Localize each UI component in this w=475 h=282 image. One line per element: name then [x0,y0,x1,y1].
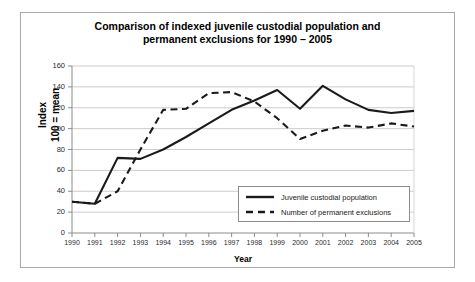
legend-swatch-dashed-icon [245,207,275,217]
y-tick-label: 0 [39,229,65,237]
x-axis-title: Year [72,254,414,264]
y-tick-label: 20 [39,208,65,216]
chart-title-line-1: Comparison of indexed juvenile custodial… [95,20,381,32]
y-tick-label: 40 [39,187,65,195]
legend-label-1: Number of permanent exclusions [281,208,391,217]
y-tick-label: 140 [39,83,65,91]
y-tick-label: 100 [39,125,65,133]
x-tick-label: 2005 [399,239,429,247]
chart-title: Comparison of indexed juvenile custodial… [30,20,445,46]
y-axis-title-line-1: Index [36,55,49,175]
chart-figure: Comparison of indexed juvenile custodial… [0,0,475,282]
legend-item-number-of-permanent-exclusions: Number of permanent exclusions [245,206,391,218]
legend-item-juvenile-custodial-population: Juvenile custodial population [245,191,377,203]
y-tick-label: 120 [39,104,65,112]
chart-legend: Juvenile custodial population Number of … [238,186,410,222]
y-tick-label: 60 [39,166,65,174]
y-tick-label: 160 [39,62,65,70]
chart-title-line-2: permanent exclusions for 1990 – 2005 [143,33,332,45]
legend-swatch-solid-icon [245,192,275,202]
y-axis-title: Index 100 = mean [36,55,66,175]
legend-label-0: Juvenile custodial population [281,193,377,202]
y-axis-title-line-2: 100 = mean [49,55,62,175]
y-tick-label: 80 [39,146,65,154]
